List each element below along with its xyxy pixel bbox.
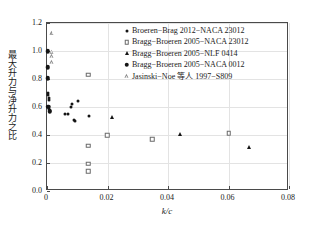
gridline-horizontal xyxy=(47,163,287,164)
legend-item[interactable]: Bragg−Broeren 2005−NACA 23012 xyxy=(122,36,249,47)
y-axis-tick-label: 0.6 xyxy=(20,102,42,111)
y-axis-tick xyxy=(47,191,50,192)
x-axis-tick-label: 0.04 xyxy=(160,193,174,202)
y-axis-tick-label: 0.2 xyxy=(20,158,42,167)
x-axis-tick xyxy=(229,186,230,189)
data-point xyxy=(45,65,50,70)
x-axis-tick-label: 0.02 xyxy=(100,193,114,202)
data-point xyxy=(67,112,70,115)
data-point xyxy=(47,99,50,102)
y-axis-tick xyxy=(47,23,50,24)
x-axis-tick-label: 0 xyxy=(44,193,48,202)
x-axis-tick-label: 0.06 xyxy=(221,193,235,202)
gridline-horizontal xyxy=(47,107,287,108)
y-axis-tick-label: 0.4 xyxy=(20,130,42,139)
data-point xyxy=(226,131,231,136)
data-point xyxy=(50,31,55,36)
legend-item[interactable]: Jasinski−Noe 等人 1997−S809 xyxy=(122,71,249,82)
data-point xyxy=(110,115,114,119)
legend-marker-icon xyxy=(122,71,131,82)
data-point xyxy=(50,54,55,59)
x-axis-tick xyxy=(289,186,290,189)
y-axis-tick-label: 0.0 xyxy=(20,186,42,195)
legend-item[interactable]: Broeren−Brag 2012−NACA 23012 xyxy=(122,25,249,36)
x-axis-tick-label: 0.08 xyxy=(281,193,295,202)
x-axis-tick xyxy=(47,186,48,189)
legend-label: Jasinski−Noe 等人 1997−S809 xyxy=(131,71,232,82)
legend-marker-icon xyxy=(122,25,131,36)
data-point xyxy=(45,76,50,81)
data-point xyxy=(47,109,52,114)
data-point xyxy=(74,120,77,123)
legend-label: Broeren−Brag 2012−NACA 23012 xyxy=(131,25,245,36)
y-axis-tick-label: 0.8 xyxy=(20,74,42,83)
legend-label: Bragg−Broeren 2005−NACA 0012 xyxy=(131,59,245,70)
gridline-horizontal xyxy=(47,23,287,24)
data-point xyxy=(86,144,91,149)
data-point xyxy=(86,169,91,174)
y-axis-tick-label: 1.2 xyxy=(20,18,42,27)
legend-marker-icon xyxy=(122,36,131,47)
scatter-chart-figure: 最大升力与净升力之比 k/c Broeren−Brag 2012−NACA 23… xyxy=(0,0,309,231)
data-point xyxy=(105,133,110,138)
data-point xyxy=(247,145,251,149)
data-point xyxy=(69,106,72,109)
legend-item[interactable]: Bragg−Broeren 2005−NLF 0414 xyxy=(122,48,249,59)
data-point xyxy=(77,99,80,102)
legend-marker-icon xyxy=(122,48,131,59)
x-axis-tick xyxy=(168,186,169,189)
data-point xyxy=(86,162,91,167)
y-axis-tick xyxy=(47,135,50,136)
gridline-horizontal xyxy=(47,135,287,136)
y-axis-label: 最大升力与净升力之比 xyxy=(3,50,17,140)
data-point xyxy=(178,132,182,136)
gridline-vertical xyxy=(289,23,290,189)
legend-label: Bragg−Broeren 2005−NACA 23012 xyxy=(131,36,249,47)
data-point xyxy=(150,137,155,142)
x-axis-label: k/c xyxy=(46,206,288,216)
legend-marker-icon xyxy=(122,59,131,70)
data-point xyxy=(88,114,91,117)
x-axis-tick xyxy=(108,186,109,189)
legend-label: Bragg−Broeren 2005−NLF 0414 xyxy=(131,48,237,59)
data-point xyxy=(86,72,91,77)
y-axis-tick xyxy=(47,163,50,164)
legend-item[interactable]: Bragg−Broeren 2005−NACA 0012 xyxy=(122,59,249,70)
chart-legend: Broeren−Brag 2012−NACA 23012Bragg−Broere… xyxy=(122,25,249,82)
gridline-vertical xyxy=(108,23,109,189)
data-point xyxy=(50,60,55,65)
y-axis-tick-label: 1.0 xyxy=(20,46,42,55)
